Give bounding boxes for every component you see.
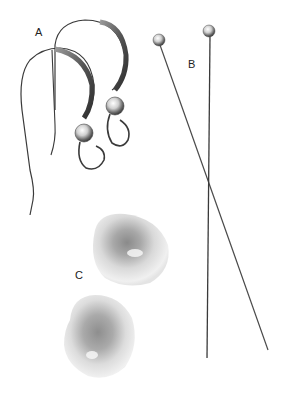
pearl-top	[93, 214, 169, 286]
pearl-bottom	[64, 295, 135, 378]
product-photo: A B C	[0, 0, 292, 395]
headpin-vertical	[203, 25, 215, 358]
label-b: B	[188, 59, 195, 70]
headpin-diagonal	[153, 34, 268, 350]
ear-wire-front	[21, 48, 104, 215]
label-a: A	[35, 27, 42, 38]
photo-illustration	[0, 0, 292, 395]
label-c: C	[75, 270, 83, 281]
